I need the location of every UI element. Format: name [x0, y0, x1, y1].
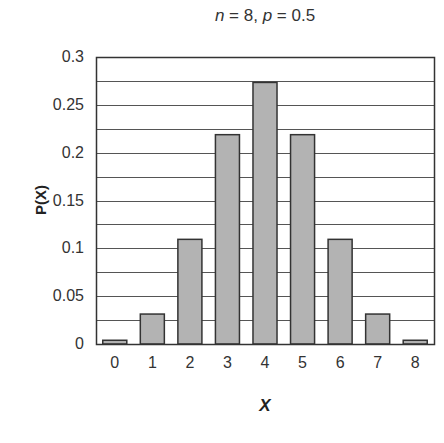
x-axis-label: X: [259, 396, 270, 416]
y-tick-label: 0.15: [53, 192, 84, 210]
x-tick-label: 2: [185, 354, 194, 372]
bar: [403, 340, 427, 344]
y-axis-label: P(X): [32, 185, 49, 215]
y-tick-label: 0.1: [62, 239, 84, 257]
bar: [140, 314, 164, 344]
x-tick-label: 0: [110, 354, 119, 372]
x-tick-label: 5: [298, 354, 307, 372]
y-tick-label: 0: [75, 335, 84, 353]
x-tick-label: 6: [336, 354, 345, 372]
bar: [366, 314, 390, 344]
x-tick-label: 8: [411, 354, 420, 372]
bar: [291, 135, 315, 344]
x-tick-label: 1: [148, 354, 157, 372]
plot-area: [0, 0, 444, 443]
x-tick-label: 4: [261, 354, 270, 372]
bar: [328, 239, 352, 344]
bar: [253, 82, 277, 344]
bar: [178, 239, 202, 344]
x-tick-label: 3: [223, 354, 232, 372]
bar: [215, 135, 239, 344]
y-tick-label: 0.2: [62, 144, 84, 162]
bar: [103, 340, 127, 344]
y-tick-label: 0.05: [53, 287, 84, 305]
y-tick-label: 0.25: [53, 96, 84, 114]
y-tick-label: 0.3: [62, 48, 84, 66]
x-tick-label: 7: [373, 354, 382, 372]
